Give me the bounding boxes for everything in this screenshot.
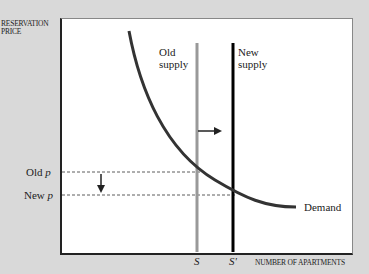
new-supply-label-line2: supply xyxy=(238,58,267,70)
new-supply-label: New supply xyxy=(238,46,267,70)
diagram-svg xyxy=(0,0,369,274)
quantity-s-prime-label: S' xyxy=(229,255,237,267)
shift-arrow-head-icon xyxy=(214,127,222,135)
x-axis-label: NUMBER OF APARTMENTS xyxy=(255,258,345,267)
old-price-label: Old p xyxy=(26,166,51,178)
quantity-s-label: S xyxy=(194,255,200,267)
new-price-text: New xyxy=(24,189,48,201)
price-arrow-head-icon xyxy=(97,185,105,193)
demand-curve xyxy=(129,31,296,207)
old-supply-label: Old supply xyxy=(159,46,188,70)
old-supply-label-line1: Old xyxy=(159,46,188,58)
demand-label: Demand xyxy=(304,201,341,213)
old-price-text: Old xyxy=(26,166,45,178)
old-price-var: p xyxy=(45,166,51,178)
new-price-var: p xyxy=(48,189,54,201)
new-price-label: New p xyxy=(24,189,53,201)
new-supply-label-line1: New xyxy=(238,46,267,58)
old-supply-label-line2: supply xyxy=(159,58,188,70)
